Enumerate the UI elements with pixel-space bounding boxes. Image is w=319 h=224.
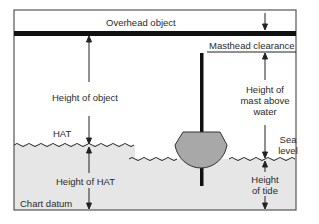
height-of-object-label: Height of object xyxy=(52,92,118,103)
masthead-clearance-label: Masthead clearance xyxy=(209,40,295,51)
mast-water-down-arrow xyxy=(263,125,268,158)
hat-label: HAT xyxy=(53,128,71,139)
chart-datum-label: Chart datum xyxy=(20,198,72,209)
height-of-hat-label: Height of HAT xyxy=(56,176,115,187)
mast-height-up-arrow xyxy=(263,53,268,80)
overhead-down-arrow xyxy=(263,13,268,30)
hat-down-arrow xyxy=(87,116,92,144)
overhead-object-label: Overhead object xyxy=(106,17,176,28)
height-of-object-arrow xyxy=(87,36,92,82)
overhead-object-bar xyxy=(14,31,296,36)
height-of-mast-label: Height of mast above water xyxy=(236,84,294,117)
sea-level-label: Sea level xyxy=(278,134,298,156)
height-of-tide-label: Height of tide xyxy=(245,174,285,196)
